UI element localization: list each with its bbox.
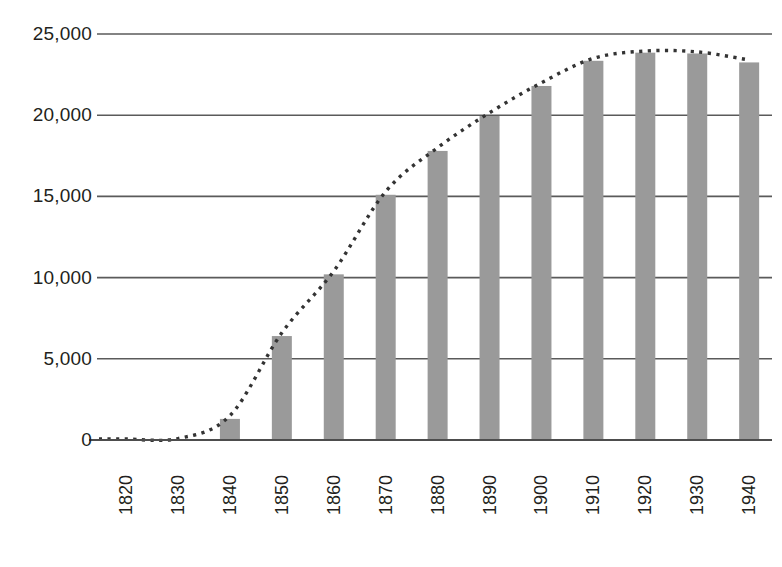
x-tick-label-1890: 1890 [481,475,499,515]
x-tick-label-1880: 1880 [429,475,447,515]
chart-container: 05,00010,00015,00020,00025,000 182018301… [0,0,782,567]
x-tick-label-1860: 1860 [325,475,343,515]
x-tick-label-1910: 1910 [584,475,602,515]
x-tick-label-1940: 1940 [740,475,758,515]
x-tick-label-1900: 1900 [532,475,550,515]
x-tick-label-1840: 1840 [221,475,239,515]
x-tick-label-1930: 1930 [688,475,706,515]
x-tick-label-1850: 1850 [273,475,291,515]
x-tick-label-1830: 1830 [169,475,187,515]
x-tick-label-1920: 1920 [636,475,654,515]
x-tick-label-1820: 1820 [117,475,135,515]
x-tick-label-1870: 1870 [377,475,395,515]
x-axis-tick-labels: 1820183018401850186018701880189019001910… [0,0,782,567]
